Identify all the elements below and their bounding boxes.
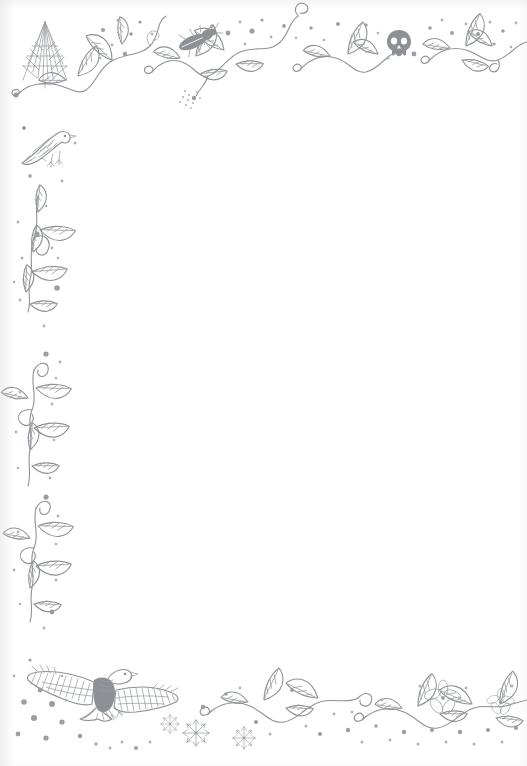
eagle-icon	[27, 665, 178, 721]
pine-tree-icon	[23, 22, 67, 88]
bottom-border-vine	[161, 668, 527, 749]
snowflake-icon	[233, 727, 255, 749]
top-border-vine	[12, 3, 527, 109]
snowflake-icon	[161, 715, 179, 733]
left-border-vine	[1, 126, 76, 629]
page-canvas	[0, 0, 527, 766]
songbird-icon	[22, 131, 76, 167]
snowflake-icon	[183, 720, 209, 746]
skull-icon	[387, 30, 411, 56]
scattered-dots-bottom	[224, 685, 518, 746]
beetle-icon	[174, 18, 227, 60]
content-area[interactable]	[95, 110, 485, 630]
